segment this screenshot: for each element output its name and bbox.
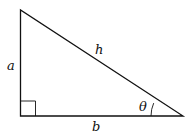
label-b: b (92, 119, 100, 134)
label-a: a (7, 58, 15, 73)
angle-arc (151, 103, 154, 116)
right-angle-marker (21, 101, 36, 116)
label-h: h (95, 42, 103, 57)
right-triangle-diagram: a b h θ (0, 0, 194, 135)
triangle-outline (21, 10, 184, 116)
label-theta: θ (139, 99, 147, 114)
